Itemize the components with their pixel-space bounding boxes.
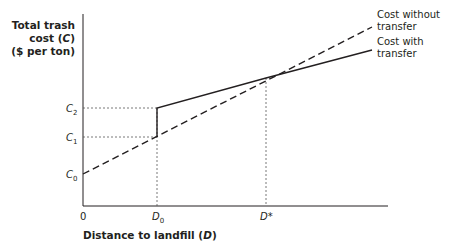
tick-d0: D0 [152, 211, 164, 225]
tick-zero: 0 [80, 211, 86, 222]
y-axis-title-line1: Total trash [12, 19, 75, 31]
tick-c1: C1 [66, 132, 77, 146]
tick-dstar: D* [260, 211, 273, 222]
x-axis-title: Distance to landfill (D) [83, 229, 217, 241]
cost-with-transfer-line [157, 50, 372, 137]
legend-cost-with-transfer-line1: Cost with [377, 36, 424, 47]
tick-c0: C0 [66, 169, 77, 183]
legend-cost-with-transfer-line2: transfer [377, 48, 417, 59]
trash-cost-diagram: Total trash cost (C) ($ per ton) C2 C1 C… [0, 0, 455, 248]
tick-c2: C2 [66, 103, 77, 117]
y-axis-title-line2: cost (C) [29, 32, 75, 44]
cost-without-transfer-line [83, 27, 372, 174]
y-axis-title-line3: ($ per ton) [11, 45, 75, 57]
legend-cost-without-transfer-line1: Cost without [377, 9, 440, 20]
legend-cost-without-transfer-line2: transfer [377, 21, 417, 32]
